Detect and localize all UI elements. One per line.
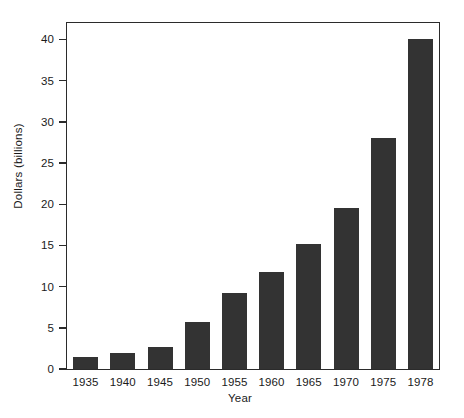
x-axis-tick-label: 1950	[177, 374, 217, 390]
x-axis-tick-label: 1955	[214, 374, 254, 390]
bar	[148, 347, 173, 369]
bar	[408, 39, 433, 369]
bar-chart-figure: 0510152025303540 Dollars (billions) 1935…	[0, 0, 464, 418]
y-axis-tick-label: 15	[41, 237, 54, 253]
bar	[185, 322, 210, 369]
x-axis-title-text: Year	[228, 392, 252, 404]
y-axis-tick-mark	[59, 245, 66, 246]
x-axis-tick-label: 1978	[400, 374, 440, 390]
y-axis-tick-label: 25	[41, 155, 54, 171]
bar	[110, 353, 135, 369]
bar	[259, 272, 284, 369]
bar	[73, 357, 98, 369]
y-axis-tick-mark	[59, 162, 66, 163]
y-axis-tick-label: 0	[48, 361, 55, 377]
y-axis-tick-mark	[59, 80, 66, 81]
x-axis-tick-label: 1960	[252, 374, 292, 390]
y-axis-tick-label: 10	[41, 279, 54, 295]
x-axis-title: Year	[0, 392, 464, 404]
y-axis-tick-mark	[59, 286, 66, 287]
y-axis-tick-mark	[59, 368, 66, 369]
x-axis-tick-label: 1965	[289, 374, 329, 390]
x-axis-tick-label: 1975	[363, 374, 403, 390]
y-axis-tick-mark	[59, 121, 66, 122]
y-axis-tick-mark	[59, 327, 66, 328]
y-axis-tick-label: 5	[48, 320, 55, 336]
bar	[222, 293, 247, 369]
x-axis-tick-label: 1945	[140, 374, 180, 390]
x-axis-tick-label: 1970	[326, 374, 366, 390]
x-axis-tick-label: 1935	[66, 374, 106, 390]
y-axis-tick-label: 30	[41, 114, 54, 130]
bar	[371, 138, 396, 369]
y-axis-tick-mark	[59, 39, 66, 40]
y-axis-tick-label: 40	[41, 31, 54, 47]
y-axis-tick-mark	[59, 204, 66, 205]
bar	[334, 208, 359, 369]
x-axis-tick-label: 1940	[103, 374, 143, 390]
y-axis-tick-label: 35	[41, 73, 54, 89]
y-axis-title: Dollars (billions)	[12, 76, 24, 256]
y-axis-tick-label: 20	[41, 196, 54, 212]
bar	[296, 244, 321, 369]
y-axis: 0510152025303540	[0, 0, 66, 418]
bars-container	[67, 23, 439, 369]
x-axis: 1935194019451950195519601965197019751978	[67, 374, 439, 394]
